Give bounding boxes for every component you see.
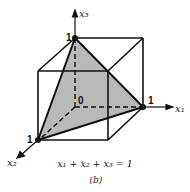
left-value: 1 bbox=[27, 134, 33, 145]
origin-value: 0 bbox=[78, 95, 84, 106]
caption: (b) bbox=[90, 175, 103, 185]
point-top bbox=[72, 35, 78, 41]
simplex-cube-diagram: x₃ x₁ x₂ 1 1 1 0 x₁ + x₂ + x₃ = 1 (b) bbox=[0, 0, 190, 192]
top-value: 1 bbox=[66, 32, 72, 43]
x3-arrow-icon bbox=[73, 10, 78, 17]
x3-label: x₃ bbox=[79, 8, 89, 19]
x1-label: x₁ bbox=[175, 103, 185, 114]
x2-label: x₂ bbox=[7, 157, 17, 168]
x1-arrow-icon bbox=[166, 105, 173, 110]
equation: x₁ + x₂ + x₃ = 1 bbox=[57, 158, 133, 169]
point-left bbox=[35, 137, 41, 143]
point-right bbox=[140, 104, 146, 110]
right-value: 1 bbox=[148, 95, 154, 106]
